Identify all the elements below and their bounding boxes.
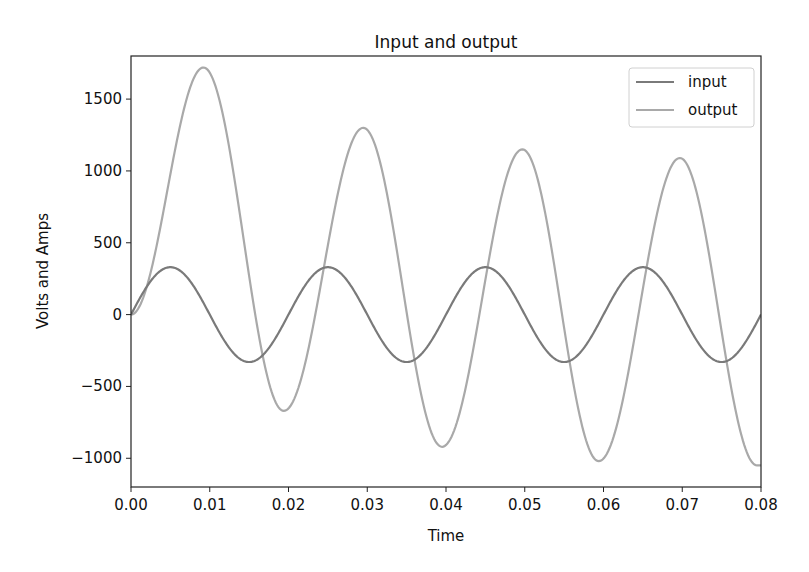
y-tick-label: 1500 bbox=[84, 90, 122, 108]
y-tick-label: 1000 bbox=[84, 162, 122, 180]
legend: input output bbox=[629, 68, 754, 127]
y-tick-label: −500 bbox=[81, 377, 122, 395]
x-tick-label: 0.02 bbox=[272, 496, 305, 514]
y-tick-label: 500 bbox=[93, 234, 122, 252]
x-tick-label: 0.00 bbox=[114, 496, 147, 514]
y-axis-label: Volts and Amps bbox=[34, 213, 52, 329]
line-chart: Input and output 0.000.010.020.030.040.0… bbox=[0, 0, 809, 572]
x-tick-label: 0.05 bbox=[508, 496, 541, 514]
x-tick-label: 0.03 bbox=[351, 496, 384, 514]
chart-title: Input and output bbox=[375, 32, 518, 52]
y-tick-label: 0 bbox=[112, 306, 122, 324]
legend-label-output: output bbox=[688, 101, 738, 119]
legend-label-input: input bbox=[688, 73, 727, 91]
x-tick-label: 0.04 bbox=[429, 496, 462, 514]
y-tick-label: −1000 bbox=[71, 449, 122, 467]
x-tick-label: 0.08 bbox=[744, 496, 777, 514]
x-tick-label: 0.06 bbox=[587, 496, 620, 514]
x-axis-label: Time bbox=[427, 527, 465, 545]
x-tick-label: 0.01 bbox=[193, 496, 226, 514]
x-tick-label: 0.07 bbox=[666, 496, 699, 514]
